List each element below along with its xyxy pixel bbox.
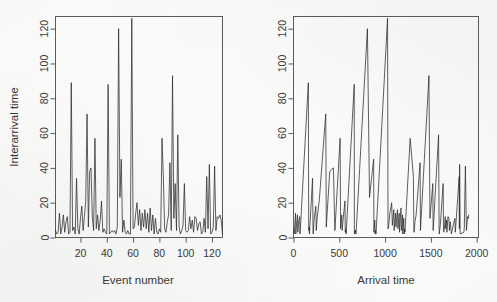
y-tick-label: 40 (39, 162, 51, 174)
left-plot-svg: 020406080100120 20406080100120 Event num… (0, 0, 247, 302)
y-tick-label: 60 (39, 127, 51, 139)
y-tick-label: 120 (39, 20, 51, 38)
left-x-axis-title: Event number (102, 274, 174, 286)
y-tick-label: 120 (277, 20, 289, 38)
left-plot-frame (56, 17, 223, 238)
right-plot-svg: 020406080100120 0500100015002000 Arrival… (247, 0, 497, 302)
right-x-axis-title: Arrival time (357, 274, 415, 286)
y-tick-label: 100 (277, 55, 289, 73)
x-tick-label: 2000 (465, 247, 489, 259)
y-tick-label: 80 (39, 92, 51, 104)
left-series-line (56, 18, 223, 234)
x-tick-label: 80 (154, 247, 166, 259)
right-y-axis-ticks: 020406080100120 (277, 20, 294, 241)
left-plot-panel: 020406080100120 20406080100120 Event num… (0, 0, 247, 302)
right-plot-panel: 020406080100120 0500100015002000 Arrival… (247, 0, 497, 302)
y-tick-label: 0 (277, 234, 289, 240)
x-tick-label: 100 (177, 247, 195, 259)
y-tick-label: 60 (277, 127, 289, 139)
right-x-axis-ticks: 0500100015002000 (291, 238, 489, 259)
left-x-axis-ticks: 20406080100120 (75, 238, 221, 259)
right-series-line (294, 18, 469, 234)
y-tick-label: 80 (277, 92, 289, 104)
x-tick-label: 500 (331, 247, 349, 259)
y-tick-label: 20 (277, 197, 289, 209)
x-tick-label: 20 (75, 247, 87, 259)
y-tick-label: 100 (39, 55, 51, 73)
x-tick-label: 1500 (419, 247, 443, 259)
y-tick-label: 20 (39, 197, 51, 209)
figure-page: 020406080100120 20406080100120 Event num… (0, 0, 497, 302)
left-y-axis-title: Interarrival time (8, 87, 20, 166)
y-tick-label: 0 (39, 234, 51, 240)
left-y-axis-ticks: 020406080100120 (39, 20, 56, 241)
x-tick-label: 60 (127, 247, 139, 259)
y-tick-label: 40 (277, 162, 289, 174)
x-tick-label: 0 (291, 247, 297, 259)
x-tick-label: 1000 (373, 247, 397, 259)
x-tick-label: 40 (101, 247, 113, 259)
x-tick-label: 120 (203, 247, 221, 259)
